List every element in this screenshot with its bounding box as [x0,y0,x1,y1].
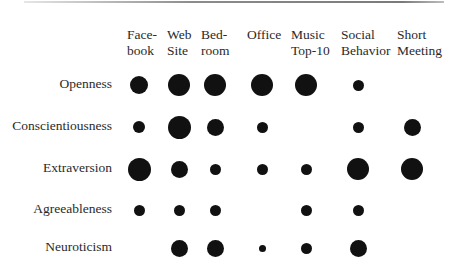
data-dot [134,205,145,216]
data-dot [301,205,312,216]
row-label: Conscientiousness [12,118,112,134]
column-header: Bed- room [201,27,230,59]
data-dot [257,164,268,175]
data-dot [207,240,224,257]
data-dot [171,161,188,178]
data-dot [257,122,268,133]
data-dot [133,121,145,133]
column-header: Music Top-10 [291,27,330,59]
column-header: Short Meeting [397,27,442,59]
bubble-matrix-chart: Face- bookWeb SiteBed- roomOfficeMusic T… [0,0,458,277]
data-dot [168,74,190,96]
column-header: Face- book [127,27,157,59]
data-dot [401,158,423,180]
data-dot [301,164,312,175]
row-label: Openness [60,76,113,92]
column-header: Web Site [167,27,191,59]
data-dot [347,158,369,180]
column-header: Office [247,27,281,43]
data-dot [301,243,312,254]
data-dot [259,245,266,252]
data-dot [207,119,224,136]
data-dot [353,205,364,216]
data-dot [171,240,188,257]
data-dot [350,240,367,257]
data-dot [174,205,185,216]
row-label: Extraversion [43,160,112,176]
data-dot [210,205,221,216]
data-dot [404,119,421,136]
column-header: Social Behavior [341,27,391,59]
data-dot [295,74,317,96]
data-dot [128,158,151,181]
data-dot [251,74,273,96]
data-dot [204,74,226,96]
data-dot [168,116,191,139]
data-dot [130,76,148,94]
data-dot [210,164,221,175]
row-label: Neuroticism [45,239,112,255]
data-dot [353,80,364,91]
row-label: Agreeableness [33,201,112,217]
data-dot [353,122,364,133]
